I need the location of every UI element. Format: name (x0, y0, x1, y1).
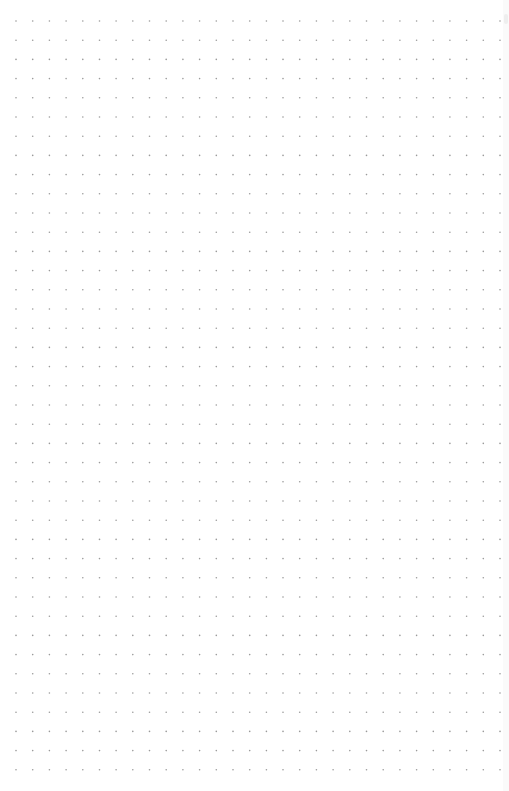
grid-dot (249, 366, 251, 368)
grid-dot (366, 673, 368, 675)
grid-dot (99, 423, 101, 425)
grid-dot (483, 539, 485, 541)
grid-dot (282, 635, 284, 637)
grid-dot (332, 231, 334, 233)
grid-dot (316, 39, 318, 41)
grid-dot (32, 270, 34, 272)
grid-dot (382, 539, 384, 541)
grid-dot (115, 289, 117, 291)
grid-dot (132, 251, 134, 253)
grid-dot (349, 327, 351, 329)
grid-dot (466, 97, 468, 99)
grid-dot (132, 558, 134, 560)
grid-dot (299, 558, 301, 560)
grid-dot (115, 212, 117, 214)
grid-dot (182, 347, 184, 349)
grid-dot (466, 270, 468, 272)
grid-dot (382, 654, 384, 656)
grid-dot (82, 289, 84, 291)
grid-dot (449, 116, 451, 118)
grid-dot (49, 711, 51, 713)
grid-dot (449, 750, 451, 752)
grid-dot (332, 462, 334, 464)
grid-dot (149, 251, 151, 253)
grid-dot (132, 308, 134, 310)
grid-dot (115, 385, 117, 387)
grid-dot (282, 577, 284, 579)
grid-dot (299, 327, 301, 329)
grid-dot (15, 59, 17, 61)
grid-dot (216, 500, 218, 502)
grid-dot (216, 193, 218, 195)
grid-dot (182, 769, 184, 771)
grid-dot (15, 423, 17, 425)
grid-dot (366, 423, 368, 425)
grid-dot (216, 212, 218, 214)
grid-dot (32, 769, 34, 771)
grid-dot (249, 116, 251, 118)
grid-dot (399, 500, 401, 502)
grid-dot (382, 519, 384, 521)
grid-dot (199, 596, 201, 598)
grid-dot (115, 673, 117, 675)
grid-dot (249, 519, 251, 521)
grid-dot (382, 615, 384, 617)
grid-dot (332, 769, 334, 771)
scrollbar-thumb[interactable] (504, 14, 508, 24)
grid-dot (416, 174, 418, 176)
grid-dot (232, 462, 234, 464)
dot-grid-canvas[interactable] (0, 0, 509, 791)
grid-dot (149, 711, 151, 713)
grid-dot (99, 193, 101, 195)
grid-dot (266, 78, 268, 80)
grid-dot (32, 251, 34, 253)
grid-dot (399, 59, 401, 61)
grid-dot (483, 59, 485, 61)
grid-dot (115, 193, 117, 195)
grid-dot (99, 385, 101, 387)
grid-dot (416, 155, 418, 157)
grid-dot (132, 59, 134, 61)
grid-dot (165, 193, 167, 195)
grid-dot (65, 385, 67, 387)
grid-dot (149, 270, 151, 272)
grid-dot (115, 443, 117, 445)
grid-dot (299, 692, 301, 694)
grid-dot (165, 539, 167, 541)
grid-dot (399, 327, 401, 329)
grid-dot (349, 78, 351, 80)
grid-dot (149, 558, 151, 560)
grid-dot (266, 462, 268, 464)
grid-dot (182, 193, 184, 195)
grid-dot (65, 596, 67, 598)
grid-dot (349, 769, 351, 771)
grid-dot (266, 519, 268, 521)
grid-dot (65, 116, 67, 118)
grid-dot (232, 615, 234, 617)
grid-dot (332, 385, 334, 387)
grid-dot (416, 39, 418, 41)
grid-dot (49, 327, 51, 329)
grid-dot (366, 212, 368, 214)
grid-dot (32, 78, 34, 80)
grid-dot (466, 539, 468, 541)
grid-dot (316, 155, 318, 157)
scrollbar[interactable] (503, 0, 509, 791)
grid-dot (32, 59, 34, 61)
grid-dot (349, 39, 351, 41)
grid-dot (299, 20, 301, 22)
grid-dot (82, 155, 84, 157)
grid-dot (165, 231, 167, 233)
grid-dot (182, 539, 184, 541)
grid-dot (32, 39, 34, 41)
grid-dot (282, 673, 284, 675)
grid-dot (466, 347, 468, 349)
grid-dot (416, 519, 418, 521)
grid-dot (332, 193, 334, 195)
grid-dot (249, 635, 251, 637)
grid-dot (449, 231, 451, 233)
grid-dot (282, 423, 284, 425)
grid-dot (399, 308, 401, 310)
grid-dot (149, 59, 151, 61)
grid-dot (15, 635, 17, 637)
